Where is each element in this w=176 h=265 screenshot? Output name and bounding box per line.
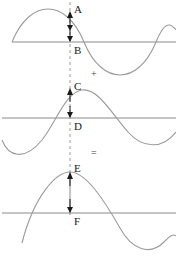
- equals-operator: =: [91, 148, 97, 158]
- label-b: B: [74, 45, 81, 56]
- sine-curve-bottom: [22, 172, 176, 250]
- marker-arrow-a: [67, 11, 73, 26]
- figure-canvas: A B C D E F + =: [0, 0, 176, 265]
- panel-bottom-group: [2, 172, 176, 250]
- label-a: A: [74, 4, 82, 15]
- sine-curve-middle: [2, 90, 176, 154]
- marker-arrow-b: [67, 25, 73, 42]
- label-f: F: [74, 216, 80, 227]
- label-d: D: [74, 121, 82, 132]
- plus-operator: +: [91, 69, 97, 79]
- wave-diagram-svg: [0, 0, 176, 265]
- panel-top-group: [12, 9, 176, 75]
- marker-arrow-d: [67, 106, 73, 118]
- panel-middle-group: [2, 90, 176, 154]
- marker-arrow-e: [67, 172, 73, 186]
- label-c: C: [74, 81, 81, 92]
- marker-arrow-f: [67, 199, 73, 213]
- label-e: E: [74, 163, 81, 174]
